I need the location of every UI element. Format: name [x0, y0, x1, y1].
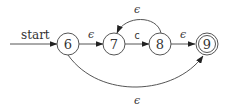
edge-8-7: ϵ: [117, 3, 161, 33]
state-label-9: 9: [203, 37, 211, 52]
edge-label-6-7: ϵ: [88, 28, 94, 41]
nfa-diagram: start ϵ c ϵ ϵ ϵ 6 7 8 9: [0, 0, 229, 110]
edge-label-8-9: ϵ: [180, 28, 186, 41]
state-7: 7: [103, 33, 125, 55]
edge-label-6-9: ϵ: [134, 94, 140, 107]
edge-8-9: ϵ: [171, 28, 195, 44]
start-label: start: [21, 28, 50, 42]
start-arrow: start: [10, 28, 57, 44]
state-label-7: 7: [110, 37, 118, 52]
edge-label-8-7: ϵ: [134, 3, 140, 16]
edge-7-8: c: [125, 30, 149, 44]
state-6: 6: [57, 33, 79, 55]
state-label-6: 6: [64, 37, 72, 52]
state-label-8: 8: [156, 37, 164, 52]
edge-label-7-8: c: [134, 30, 140, 41]
state-8: 8: [149, 33, 171, 55]
edge-6-9: ϵ: [68, 55, 203, 107]
edge-6-7: ϵ: [79, 28, 103, 44]
state-9-accepting: 9: [196, 33, 218, 55]
